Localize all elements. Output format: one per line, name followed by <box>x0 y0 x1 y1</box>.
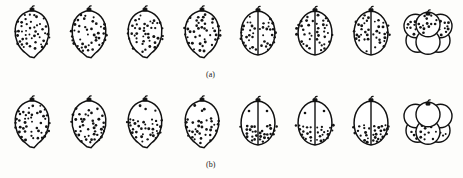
cleavage-row-a <box>0 2 463 74</box>
embryo-stage-a-4 <box>174 2 230 74</box>
embryo-stage-a-1 <box>4 2 60 74</box>
embryo-stage-b-8 <box>400 92 456 164</box>
embryo-stage-a-5 <box>230 2 286 74</box>
embryo-stage-a-3 <box>117 2 173 74</box>
embryo-stage-a-6 <box>287 2 343 74</box>
embryo-stage-a-2 <box>61 2 117 74</box>
figure-root: (a) (b) <box>0 0 463 178</box>
cleavage-row-b <box>0 92 463 164</box>
row-label-a: (a) <box>206 70 215 79</box>
embryo-stage-b-4 <box>174 92 230 164</box>
embryo-stage-a-8 <box>400 2 456 74</box>
embryo-stage-b-6 <box>287 92 343 164</box>
embryo-stage-b-2 <box>61 92 117 164</box>
embryo-stage-b-1 <box>4 92 60 164</box>
embryo-stage-b-5 <box>230 92 286 164</box>
embryo-stage-b-7 <box>343 92 399 164</box>
embryo-stage-a-7 <box>343 2 399 74</box>
embryo-stage-b-3 <box>117 92 173 164</box>
row-label-b: (b) <box>206 160 215 169</box>
